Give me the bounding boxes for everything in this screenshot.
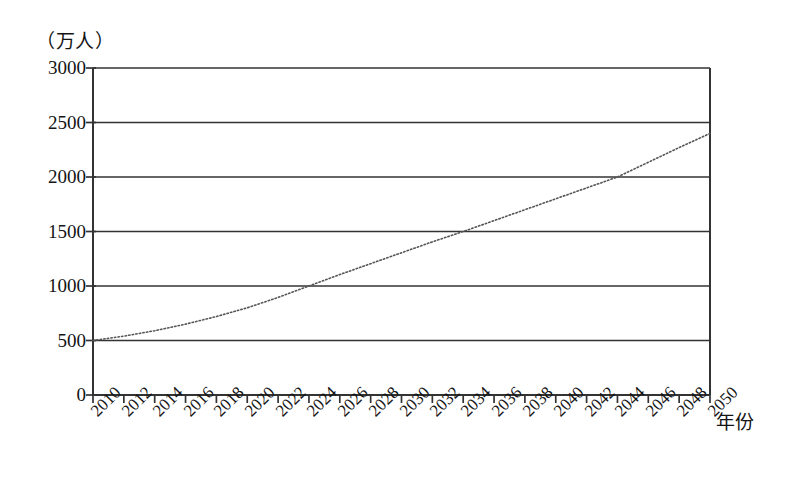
data-series-line	[93, 133, 710, 340]
gridlines-group	[93, 68, 710, 341]
x-axis-tick-marks-group	[86, 68, 710, 403]
chart-container: （万人） 050010001500200025003000 2010201220…	[0, 0, 795, 482]
x-axis-title: 年份	[716, 407, 754, 434]
